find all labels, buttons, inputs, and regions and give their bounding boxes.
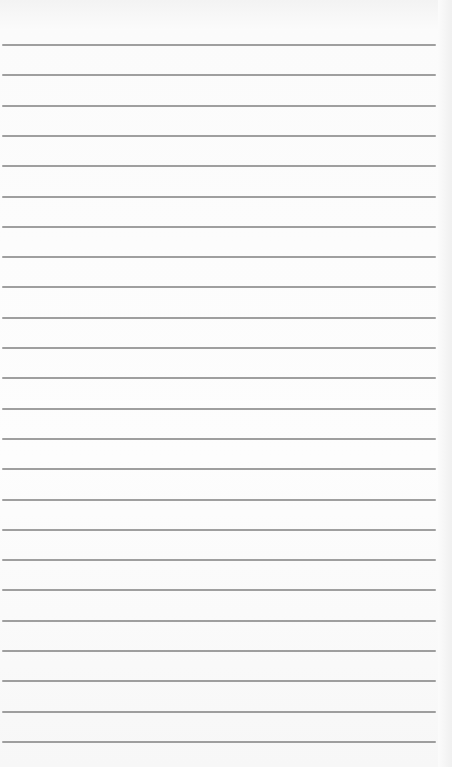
ruled-line: [2, 377, 436, 379]
ruled-line: [2, 226, 436, 228]
ruled-line: [2, 286, 436, 288]
ruled-line: [2, 438, 436, 440]
ruled-line: [2, 559, 436, 561]
ruled-line: [2, 620, 436, 622]
ruled-line: [2, 44, 436, 46]
ruled-line: [2, 468, 436, 470]
ruled-line: [2, 74, 436, 76]
ruled-line: [2, 529, 436, 531]
paper-right-edge-shadow: [438, 0, 452, 767]
ruled-line: [2, 499, 436, 501]
lined-paper-sheet: [0, 0, 452, 767]
ruled-line: [2, 317, 436, 319]
ruled-line: [2, 347, 436, 349]
ruled-line: [2, 408, 436, 410]
ruled-line: [2, 165, 436, 167]
ruled-line: [2, 256, 436, 258]
ruled-line: [2, 650, 436, 652]
ruled-line: [2, 196, 436, 198]
ruled-line: [2, 680, 436, 682]
ruled-line: [2, 741, 436, 743]
ruled-line: [2, 135, 436, 137]
ruled-line: [2, 589, 436, 591]
ruled-line: [2, 105, 436, 107]
ruled-line: [2, 711, 436, 713]
